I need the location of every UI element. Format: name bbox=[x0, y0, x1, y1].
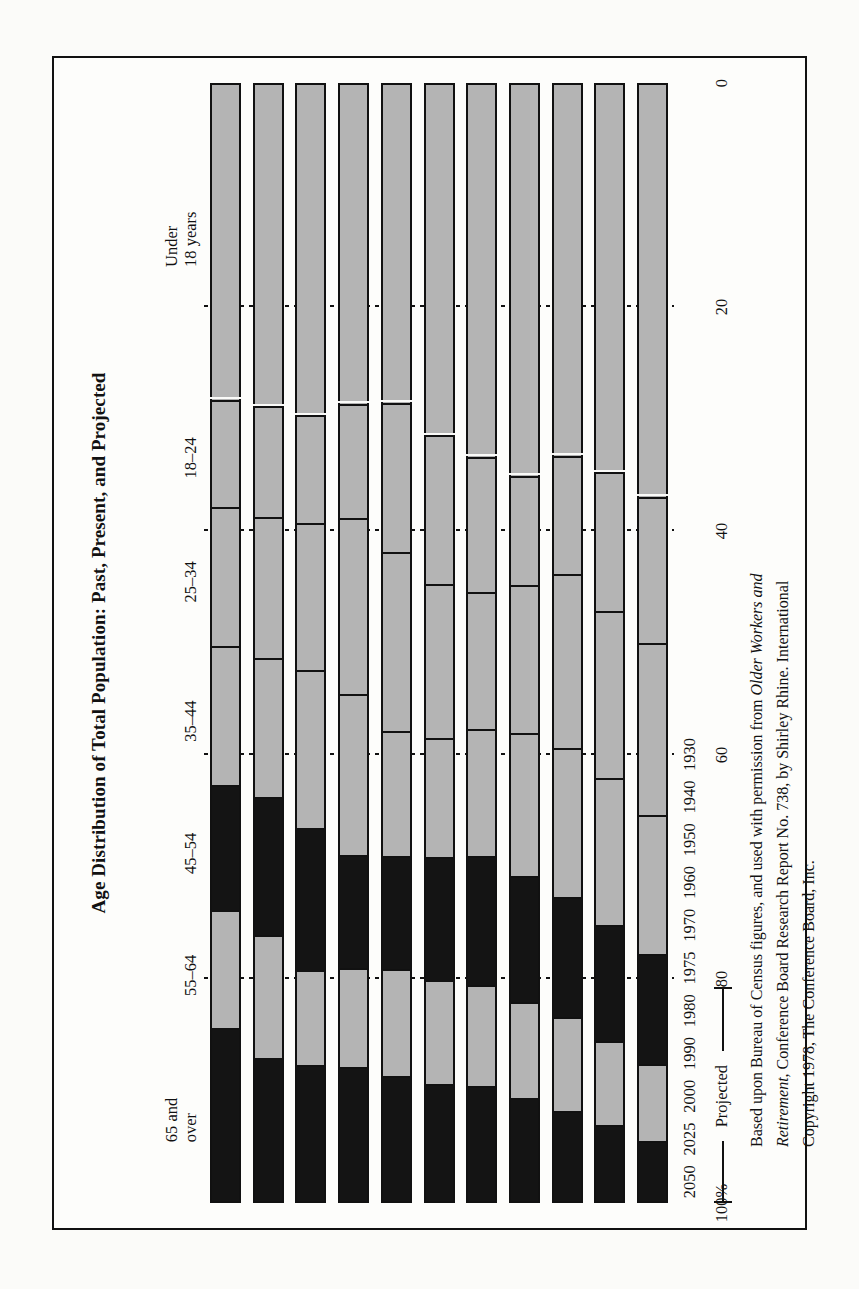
figure-frame: Age Distribution of Total Population: Pa… bbox=[52, 56, 807, 1230]
bar-segment bbox=[468, 729, 495, 856]
bar-segment bbox=[639, 1141, 666, 1201]
bar-row bbox=[551, 83, 582, 1203]
caption-text-1: Based upon Bureau of Census figures, and… bbox=[748, 696, 765, 1147]
stacked-bar-1975 bbox=[423, 83, 454, 1203]
bar-segment bbox=[596, 85, 623, 472]
caption-text-2: , Conference Board Research Report No. 7… bbox=[773, 581, 790, 1078]
stacked-bar-1930 bbox=[637, 83, 668, 1203]
bar-segment bbox=[254, 797, 281, 935]
bar-segment bbox=[639, 1064, 666, 1141]
figure-caption: Based upon Bureau of Census figures, and… bbox=[744, 137, 822, 1147]
bar-segment bbox=[211, 910, 238, 1028]
bar-segment bbox=[297, 970, 324, 1065]
caption-italic-title-2: Retirement bbox=[773, 1077, 790, 1147]
stacked-bar-2025 bbox=[252, 83, 283, 1203]
bar-segment bbox=[639, 85, 666, 497]
bar-segment bbox=[211, 400, 238, 507]
bar-segment bbox=[254, 658, 281, 798]
stacked-bar-2050 bbox=[209, 83, 240, 1203]
figure-page: Age Distribution of Total Population: Pa… bbox=[0, 0, 859, 1289]
bracket-label: Projected bbox=[712, 1051, 732, 1141]
bar-segment bbox=[297, 670, 324, 828]
bar-segment bbox=[297, 828, 324, 970]
bar-segment bbox=[553, 897, 580, 1016]
bar-segment bbox=[468, 85, 495, 457]
bar-row bbox=[466, 83, 497, 1203]
bar-segment bbox=[468, 985, 495, 1087]
bar-segment bbox=[340, 968, 367, 1067]
bar-row bbox=[209, 83, 240, 1203]
bar-segment bbox=[254, 85, 281, 406]
legend-label-7: Under 18 years bbox=[163, 211, 200, 266]
under18-boundary-line bbox=[338, 401, 369, 403]
bar-segment bbox=[468, 457, 495, 592]
legend-label-3: 45–54 bbox=[181, 833, 199, 874]
caption-text-3: Copyright 1978, The Conference Board, In… bbox=[799, 860, 816, 1147]
bar-segment bbox=[340, 85, 367, 404]
bar-row bbox=[295, 83, 326, 1203]
bar-segment bbox=[382, 1076, 409, 1201]
bar-segment bbox=[510, 733, 537, 876]
bar-segment bbox=[425, 435, 452, 583]
bar-segment bbox=[211, 85, 238, 400]
bar-segment bbox=[297, 523, 324, 670]
bar-segment bbox=[254, 406, 281, 516]
stacked-bar-2000 bbox=[295, 83, 326, 1203]
bar-segment bbox=[553, 1111, 580, 1201]
bar-row bbox=[594, 83, 625, 1203]
bar-segment bbox=[553, 456, 580, 574]
scale-label-0: 0 bbox=[712, 53, 732, 113]
bar-segment bbox=[553, 85, 580, 456]
bar-segment bbox=[596, 1125, 623, 1201]
stacked-bar-1990 bbox=[338, 83, 369, 1203]
legend-label-6: 18–24 bbox=[181, 437, 199, 478]
bar-segment bbox=[211, 507, 238, 647]
under18-boundary-line bbox=[252, 404, 283, 406]
year-axis: 1930194019501960197019751980199020002025… bbox=[680, 83, 706, 1203]
bar-segment bbox=[596, 778, 623, 925]
bar-segment bbox=[297, 415, 324, 522]
stacked-bar-1980 bbox=[380, 83, 411, 1203]
bar-row bbox=[423, 83, 454, 1203]
under18-boundary-line bbox=[295, 413, 326, 415]
under18-boundary-line bbox=[637, 494, 668, 496]
under18-boundary-line bbox=[209, 397, 240, 399]
page-title: Age Distribution of Total Population: Pa… bbox=[88, 83, 110, 1203]
chart-plot-area bbox=[204, 83, 674, 1203]
bar-segment bbox=[596, 611, 623, 778]
bar-segment bbox=[425, 1084, 452, 1201]
caption-italic-title-1: Older Workers and bbox=[748, 573, 765, 695]
bar-segment bbox=[510, 1002, 537, 1098]
bar-segment bbox=[425, 738, 452, 857]
bar-segment bbox=[510, 585, 537, 733]
bar-segment bbox=[510, 476, 537, 585]
bar-segment bbox=[553, 574, 580, 748]
bar-segment bbox=[254, 517, 281, 658]
scale-label-40: 40 bbox=[712, 501, 732, 561]
bar-segment bbox=[425, 857, 452, 980]
bar-segment bbox=[382, 731, 409, 856]
stacked-bar-1970 bbox=[466, 83, 497, 1203]
stacked-bar-1960 bbox=[508, 83, 539, 1203]
under18-boundary-line bbox=[508, 473, 539, 475]
bar-segment bbox=[211, 785, 238, 910]
rotated-figure-stage: Age Distribution of Total Population: Pa… bbox=[80, 83, 780, 1203]
bar-segment bbox=[510, 1098, 537, 1201]
bar-segment bbox=[639, 497, 666, 643]
bar-segment bbox=[382, 403, 409, 551]
bar-segment bbox=[510, 85, 537, 476]
stacked-bar-1950 bbox=[551, 83, 582, 1203]
stacked-bars bbox=[204, 83, 674, 1203]
bar-row bbox=[380, 83, 411, 1203]
bar-segment bbox=[596, 472, 623, 610]
under18-boundary-line bbox=[466, 454, 497, 456]
scale-label-20: 20 bbox=[712, 277, 732, 337]
bar-segment bbox=[382, 856, 409, 969]
bar-segment bbox=[340, 404, 367, 518]
bar-segment bbox=[468, 1086, 495, 1201]
bracket-line-right bbox=[722, 989, 724, 1051]
bar-segment bbox=[382, 969, 409, 1076]
bar-segment bbox=[468, 592, 495, 729]
under18-boundary-line bbox=[423, 433, 454, 435]
legend-label-4: 35–44 bbox=[181, 701, 199, 742]
